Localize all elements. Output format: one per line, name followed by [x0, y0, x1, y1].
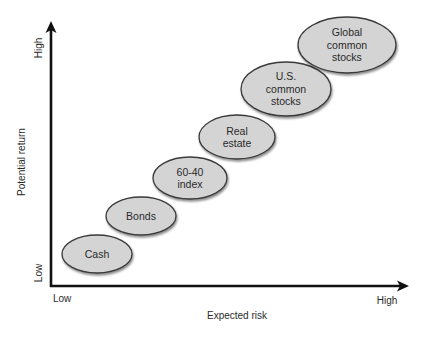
asset-bubble-global-common-stocks: Globalcommonstocks [298, 17, 396, 73]
x-axis-high-label: High [377, 295, 398, 306]
bubble-label: stocks [271, 95, 301, 107]
asset-bubble-cash: Cash [62, 235, 132, 273]
x-axis: Low High Expected risk [50, 281, 409, 322]
x-axis-title: Expected risk [207, 310, 268, 321]
bubble-label: stocks [332, 51, 362, 63]
y-axis: High Low Potential return [16, 21, 57, 287]
bubble-label: common [327, 39, 367, 51]
bubble-label: Cash [85, 248, 110, 260]
bubble-label: 60-40 [177, 166, 204, 178]
bubble-label: estate [223, 137, 252, 149]
asset-bubble-60-40-index: 60-40index [153, 157, 227, 199]
asset-bubble-u-s-common-stocks: U.S.commonstocks [241, 62, 331, 116]
bubble-label: U.S. [276, 70, 296, 82]
bubble-label: Real [226, 125, 248, 137]
asset-bubble-real-estate: Realestate [199, 115, 275, 159]
risk-return-diagram: High Low Potential return Low High Expec… [0, 0, 427, 340]
x-axis-low-label: Low [53, 293, 72, 304]
bubble-label: Global [332, 26, 362, 38]
y-axis-title: Potential return [16, 128, 27, 196]
y-axis-high-label: High [33, 38, 44, 59]
bubble-label: index [177, 178, 203, 190]
bubble-label: Bonds [126, 210, 156, 222]
asset-bubbles: CashBonds60-40indexRealestateU.S.commons… [62, 17, 396, 273]
y-axis-low-label: Low [33, 263, 44, 282]
bubble-label: common [266, 83, 306, 95]
asset-bubble-bonds: Bonds [106, 197, 176, 235]
